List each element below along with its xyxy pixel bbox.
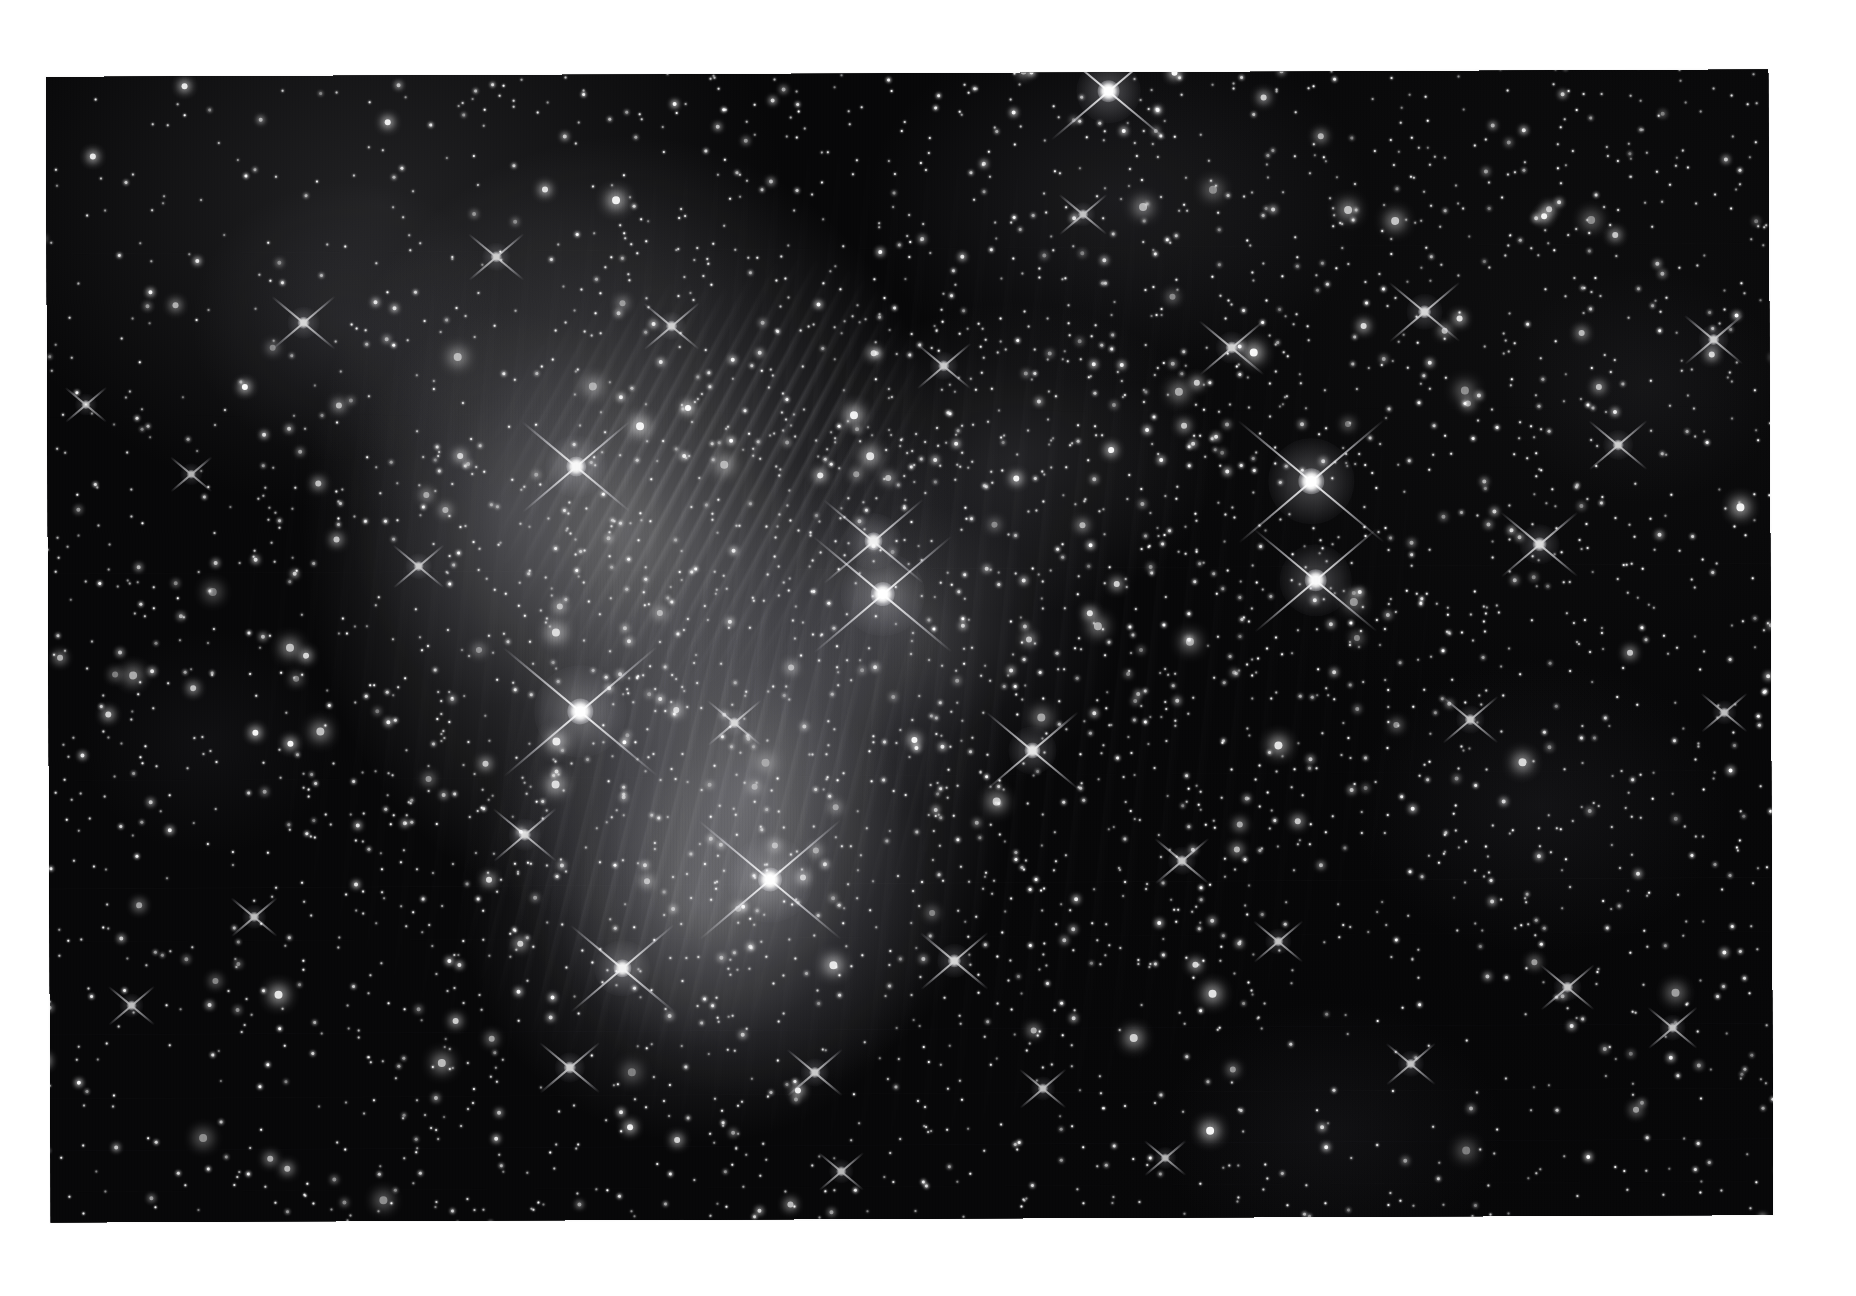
star-point xyxy=(286,643,294,651)
star-point xyxy=(1080,95,1083,98)
star-point xyxy=(313,819,316,822)
star-point xyxy=(1162,881,1165,884)
star-point xyxy=(717,1017,719,1019)
star-point xyxy=(1770,810,1773,813)
star-point xyxy=(730,974,732,976)
star-point xyxy=(72,736,74,738)
star-point xyxy=(465,882,468,885)
star-point xyxy=(1101,281,1104,284)
star-point xyxy=(1513,454,1515,456)
star-point xyxy=(802,724,806,728)
star-point xyxy=(153,607,155,609)
star-point xyxy=(1313,85,1315,87)
star-point xyxy=(530,785,532,787)
star-point xyxy=(1080,522,1086,528)
star-point xyxy=(1200,887,1203,890)
star-point xyxy=(1308,339,1310,341)
star-halo xyxy=(727,837,813,923)
star-core xyxy=(758,868,782,892)
star-point xyxy=(1508,647,1510,649)
star-point xyxy=(624,237,626,239)
star-point xyxy=(1119,947,1121,949)
star-core xyxy=(1024,742,1040,758)
star-point xyxy=(1570,1025,1574,1029)
star-point xyxy=(941,389,943,391)
star-point xyxy=(1003,685,1006,688)
star-point xyxy=(1757,867,1759,869)
star-point xyxy=(605,675,608,678)
diffraction-spike xyxy=(1253,528,1377,631)
star-point xyxy=(1295,265,1298,268)
star-point xyxy=(208,486,210,488)
star-point xyxy=(919,457,922,460)
star-point xyxy=(1729,769,1733,773)
star-point xyxy=(1752,577,1754,579)
star-point xyxy=(269,634,271,636)
star-point xyxy=(925,441,927,443)
star-point xyxy=(82,1144,84,1146)
star-point xyxy=(1693,587,1695,589)
star-point xyxy=(990,568,992,570)
star-point xyxy=(1486,606,1488,608)
star-point xyxy=(703,997,706,1000)
star-point xyxy=(1751,1054,1754,1057)
star-point xyxy=(94,99,96,101)
star-point xyxy=(149,436,151,438)
star-point xyxy=(551,780,559,788)
star-point xyxy=(1458,76,1460,78)
star-point xyxy=(243,1024,245,1026)
star-point xyxy=(717,174,719,176)
star-point xyxy=(1149,512,1151,514)
star-point xyxy=(1403,1159,1407,1163)
star-point xyxy=(937,444,939,446)
star-point xyxy=(135,855,138,858)
star-point xyxy=(793,413,795,415)
star-point xyxy=(1408,94,1410,96)
star-point xyxy=(769,435,771,437)
star-point xyxy=(344,1149,346,1151)
star-point xyxy=(363,812,365,814)
star-point xyxy=(1154,129,1158,133)
star-point xyxy=(712,242,714,244)
star-point xyxy=(1023,310,1025,312)
star-point xyxy=(841,845,843,847)
star-point xyxy=(1312,527,1314,529)
star-point xyxy=(90,995,93,998)
star-point xyxy=(1685,921,1687,923)
star-point xyxy=(625,110,628,113)
star-point xyxy=(1014,534,1017,537)
star-point xyxy=(1027,430,1029,432)
star-point xyxy=(1731,380,1733,382)
star-point xyxy=(970,963,972,965)
star-point xyxy=(1648,892,1650,894)
star-point xyxy=(1126,586,1128,588)
star-point xyxy=(594,464,596,466)
diffraction-spike xyxy=(1389,281,1461,341)
star-point xyxy=(1589,651,1591,653)
star-point xyxy=(925,492,927,494)
star-point xyxy=(1587,547,1589,549)
star-point xyxy=(851,315,853,317)
star-point xyxy=(393,1188,396,1191)
star-point xyxy=(1670,494,1672,496)
star-point xyxy=(628,1068,636,1076)
star-point xyxy=(984,665,986,667)
star-point xyxy=(1450,453,1452,455)
star-point xyxy=(1051,1063,1053,1065)
star-point xyxy=(769,179,773,183)
star-point xyxy=(1677,893,1679,895)
vignette-layer xyxy=(46,69,1774,1223)
star-point xyxy=(637,968,639,970)
star-point xyxy=(1042,253,1046,257)
star-point xyxy=(168,1044,170,1046)
star-point xyxy=(1650,430,1652,432)
diffraction-spike xyxy=(824,499,924,584)
star-point xyxy=(1203,959,1205,961)
star-point xyxy=(1055,651,1058,654)
star-point xyxy=(1609,224,1611,226)
star-point xyxy=(748,433,750,435)
star-point xyxy=(1531,576,1535,580)
star-point xyxy=(1080,782,1082,784)
star-point xyxy=(1197,964,1199,966)
star-point xyxy=(717,1021,719,1023)
